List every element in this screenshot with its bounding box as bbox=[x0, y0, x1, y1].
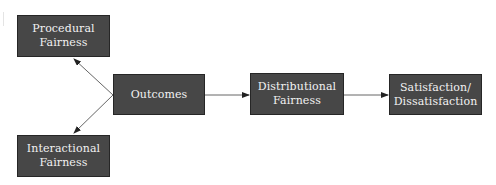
scan-artifact-line bbox=[3, 12, 4, 26]
node-label-line: Satisfaction/ bbox=[394, 81, 478, 95]
node-interactional-fairness: Interactional Fairness bbox=[17, 135, 110, 177]
node-label-line: Dissatisfaction bbox=[394, 95, 478, 109]
node-label-line: Fairness bbox=[27, 156, 100, 170]
node-label-line: Fairness bbox=[258, 94, 336, 108]
node-label-line: Fairness bbox=[32, 36, 94, 50]
node-satisfaction-dissatisfaction: Satisfaction/ Dissatisfaction bbox=[389, 74, 482, 115]
edge-outcomes-to-interactional bbox=[74, 95, 113, 133]
node-distributional-fairness: Distributional Fairness bbox=[250, 73, 344, 115]
node-procedural-fairness: Procedural Fairness bbox=[17, 15, 110, 57]
node-label-line: Distributional bbox=[258, 80, 336, 94]
node-label-line: Procedural bbox=[32, 22, 94, 36]
node-outcomes: Outcomes bbox=[113, 74, 205, 115]
node-label-line: Outcomes bbox=[131, 88, 188, 102]
node-label-line: Interactional bbox=[27, 142, 100, 156]
edge-outcomes-to-procedural bbox=[74, 59, 113, 95]
